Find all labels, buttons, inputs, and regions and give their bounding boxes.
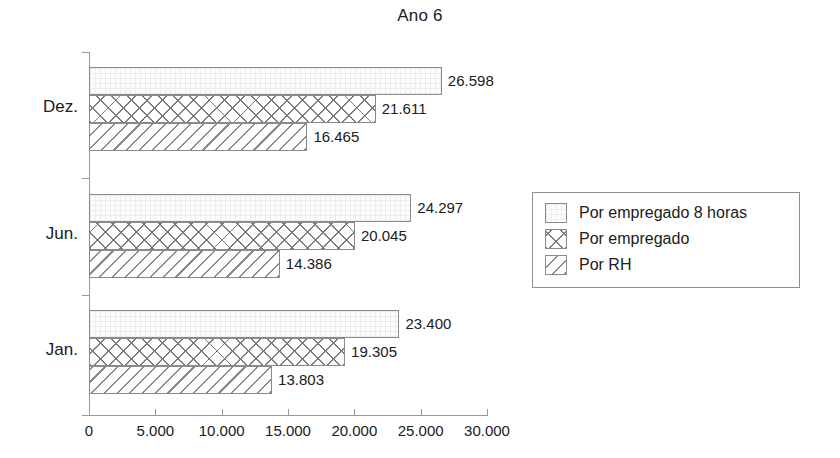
x-axis-tick-label: 30.000 <box>464 422 510 439</box>
legend: Por empregado 8 horas Por empregado Por … <box>532 192 800 288</box>
bar-dez-series-1 <box>89 67 442 95</box>
legend-label-series-3: Por RH <box>579 256 631 274</box>
y-axis-tick <box>82 178 89 179</box>
bar-jan-series-1 <box>89 310 399 338</box>
x-axis-tick-label: 5.000 <box>137 422 175 439</box>
y-axis-tick <box>82 295 89 296</box>
legend-item-por-rh: Por RH <box>545 253 631 277</box>
bar-value-label: 21.611 <box>382 100 427 117</box>
bar-value-label: 23.400 <box>405 315 451 332</box>
bar-dez-series-3 <box>89 123 307 151</box>
bar-value-label: 16.465 <box>313 128 359 145</box>
bar-value-label: 24.297 <box>417 199 463 216</box>
bar-value-label: 20.045 <box>361 227 407 244</box>
bar-jun-series-1 <box>89 194 411 222</box>
bar-value-label: 14.386 <box>286 255 332 272</box>
x-axis-tick <box>89 409 90 416</box>
bar-jan-series-3 <box>89 366 272 394</box>
bar-jun-series-2 <box>89 222 355 250</box>
bar-jun-series-3 <box>89 250 280 278</box>
y-axis-tick <box>82 52 89 53</box>
bar-dez-series-2 <box>89 95 376 123</box>
legend-swatch-icon-series-1 <box>545 203 567 223</box>
x-axis-tick <box>155 409 156 416</box>
x-axis-tick-label: 15.000 <box>265 422 311 439</box>
category-label-dez: Dez. <box>8 97 78 117</box>
bar-chart: Ano 6 05.00010.00015.00020.00025.00030.0… <box>0 0 840 458</box>
legend-swatch-icon-series-3 <box>545 255 567 275</box>
x-axis-tick-label: 20.000 <box>331 422 377 439</box>
category-label-jun: Jun. <box>8 224 78 244</box>
legend-item-por-empregado-8-horas: Por empregado 8 horas <box>545 201 747 225</box>
legend-label-series-1: Por empregado 8 horas <box>579 204 747 222</box>
legend-item-por-empregado: Por empregado <box>545 227 689 251</box>
x-axis-tick <box>222 409 223 416</box>
x-axis-tick <box>421 409 422 416</box>
chart-title: Ano 6 <box>0 6 840 26</box>
legend-label-series-2: Por empregado <box>579 230 689 248</box>
category-label-jan: Jan. <box>8 340 78 360</box>
x-axis-tick-label: 10.000 <box>199 422 245 439</box>
x-axis-tick <box>288 409 289 416</box>
bar-value-label: 19.305 <box>351 343 397 360</box>
x-axis-tick <box>354 409 355 416</box>
x-axis-tick <box>487 409 488 416</box>
x-axis-tick-label: 25.000 <box>398 422 444 439</box>
bar-value-label: 13.803 <box>278 371 324 388</box>
x-axis-tick-label: 0 <box>85 422 93 439</box>
y-axis-tick <box>82 415 89 416</box>
legend-swatch-icon-series-2 <box>545 229 567 249</box>
bar-jan-series-2 <box>89 338 345 366</box>
bar-value-label: 26.598 <box>448 72 494 89</box>
